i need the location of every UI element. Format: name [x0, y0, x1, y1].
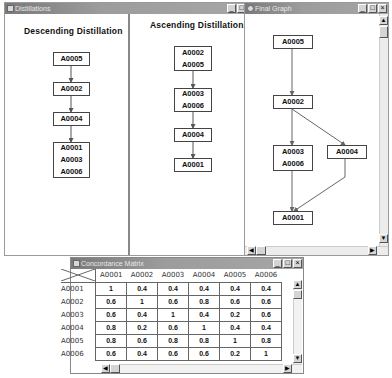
matrix-cell[interactable]: 0.6 [96, 347, 127, 360]
matrix-cell[interactable]: 0.2 [220, 308, 251, 321]
close-button[interactable]: × [293, 259, 302, 268]
table-row: A0005 0.8 0.6 0.8 0.8 1 0.8 [61, 334, 282, 347]
window-title: Final Graph [255, 5, 292, 12]
matrix-cell[interactable]: 0.6 [251, 295, 282, 308]
matrix-cell[interactable]: 0.8 [96, 334, 127, 347]
column-header: A0004 [189, 269, 220, 282]
table-row: A0003 0.6 0.4 1 0.4 0.2 0.6 [61, 308, 282, 321]
descending-pane: Descending Distillation A0005 A0002 A000… [5, 14, 128, 255]
scroll-down-button[interactable]: ▼ [379, 234, 388, 243]
scroll-up-button[interactable]: ▲ [379, 16, 388, 25]
scroll-right-button[interactable]: ▶ [283, 364, 292, 373]
graph-node-a0001[interactable]: A0001 [273, 211, 313, 225]
scroll-down-button[interactable]: ▼ [293, 354, 302, 363]
window-app-icon [7, 5, 14, 12]
matrix-cell[interactable]: 0.4 [127, 282, 158, 295]
matrix-cell[interactable]: 0.4 [127, 308, 158, 321]
descending-edges [5, 14, 128, 255]
desc-node-2[interactable]: A0002 [53, 82, 90, 96]
header-row: A0001 A0002 A0003 A0004 A0005 A0006 [61, 269, 282, 282]
row-header: A0004 [61, 321, 96, 334]
matrix-cell[interactable]: 0.4 [158, 282, 189, 295]
matrix-cell[interactable]: 0.8 [96, 321, 127, 334]
desc-node-3[interactable]: A0004 [53, 112, 90, 126]
scroll-thumb[interactable] [379, 26, 388, 38]
window-app-icon [247, 5, 254, 12]
matrix-cell[interactable]: 0.2 [220, 347, 251, 360]
asc-node-4[interactable]: A0001 [174, 158, 212, 172]
matrix-cell[interactable]: 1 [220, 334, 251, 347]
row-header: A0001 [61, 282, 96, 295]
matrix-cell[interactable]: 0.8 [251, 334, 282, 347]
scroll-left-button[interactable]: ◀ [247, 246, 256, 255]
scroll-up-button[interactable]: ▲ [293, 280, 302, 289]
window-title: Distillations [15, 5, 50, 12]
matrix-cell[interactable]: 0.6 [96, 295, 127, 308]
matrix-cell[interactable]: 0.6 [158, 295, 189, 308]
scroll-thumb[interactable] [110, 364, 120, 373]
matrix-cell[interactable]: 0.4 [127, 347, 158, 360]
matrix-cell[interactable]: 0.6 [220, 295, 251, 308]
matrix-cell[interactable]: 0.6 [96, 308, 127, 321]
minimize-button[interactable]: _ [358, 4, 367, 13]
matrix-cell[interactable]: 0.2 [127, 321, 158, 334]
matrix-cell[interactable]: 1 [96, 282, 127, 295]
matrix-cell[interactable]: 0.4 [220, 321, 251, 334]
matrix-cell[interactable]: 0.8 [189, 295, 220, 308]
matrix-cell[interactable]: 0.6 [158, 347, 189, 360]
asc-node-2[interactable]: A0003 A0006 [174, 88, 212, 112]
matrix-cell[interactable]: 0.6 [158, 321, 189, 334]
graph-node-a0003-a0006[interactable]: A0003 A0006 [273, 145, 313, 171]
column-header: A0002 [127, 269, 158, 282]
close-button[interactable]: × [378, 4, 387, 13]
desc-node-4[interactable]: A0001 A0003 A0006 [53, 142, 90, 178]
window-title: Concordance Matrix [81, 260, 144, 267]
maximize-button[interactable]: □ [283, 259, 292, 268]
row-header: A0005 [61, 334, 96, 347]
scroll-right-button[interactable]: ▶ [368, 246, 377, 255]
matrix-cell[interactable]: 0.4 [189, 282, 220, 295]
matrix-cell[interactable]: 1 [251, 347, 282, 360]
minimize-button[interactable]: _ [273, 259, 282, 268]
desc-node-1[interactable]: A0005 [53, 52, 90, 66]
concordance-matrix-window: Concordance Matrix _ □ × A0001 A0002 A00… [70, 257, 304, 374]
matrix-cell[interactable]: 0.8 [189, 334, 220, 347]
matrix-cell[interactable]: 0.4 [220, 282, 251, 295]
scroll-thumb[interactable] [256, 246, 266, 255]
table-row: A0004 0.8 0.2 0.6 1 0.4 0.4 [61, 321, 282, 334]
window-app-icon [73, 260, 80, 267]
scroll-left-button[interactable]: ◀ [101, 364, 110, 373]
final-graph-titlebar[interactable]: Final Graph _ □ × [245, 3, 388, 14]
matrix-cell[interactable]: 1 [158, 308, 189, 321]
ascending-pane: Ascending Distillation A0002 A0005 A0003… [130, 14, 247, 255]
matrix-cell[interactable]: 0.4 [189, 308, 220, 321]
matrix-cell[interactable]: 0.4 [251, 321, 282, 334]
table-row: A0002 0.6 1 0.6 0.8 0.6 0.6 [61, 295, 282, 308]
graph-node-a0005[interactable]: A0005 [273, 35, 313, 49]
maximize-button[interactable]: □ [368, 4, 377, 13]
vertical-scrollbar[interactable]: ▲ ▼ [293, 280, 302, 364]
matrix-cell[interactable]: 0.6 [127, 334, 158, 347]
horizontal-scrollbar[interactable]: ◀ ▶ [101, 364, 302, 373]
matrix-titlebar[interactable]: Concordance Matrix _ □ × [71, 258, 303, 269]
asc-node-3[interactable]: A0004 [174, 128, 212, 142]
column-header: A0006 [251, 269, 282, 282]
asc-node-1[interactable]: A0002 A0005 [174, 46, 212, 71]
matrix-cell[interactable]: 1 [189, 321, 220, 334]
matrix-cell[interactable]: 0.6 [189, 347, 220, 360]
graph-node-a0002[interactable]: A0002 [273, 95, 313, 109]
row-header: A0003 [61, 308, 96, 321]
graph-node-a0004[interactable]: A0004 [327, 145, 367, 159]
matrix-cell[interactable]: 0.6 [251, 308, 282, 321]
matrix-cell[interactable]: 0.4 [251, 282, 282, 295]
row-header: A0006 [61, 347, 96, 360]
final-graph-window: Final Graph _ □ × A0005 [244, 2, 389, 256]
distillations-window: Distillations _ □ Descending Distillatio… [4, 2, 248, 256]
matrix-cell[interactable]: 0.8 [158, 334, 189, 347]
distillations-titlebar[interactable]: Distillations _ □ [5, 3, 247, 14]
vertical-scrollbar[interactable]: ▲ ▼ [379, 14, 388, 246]
horizontal-scrollbar[interactable]: ◀ ▶ [245, 246, 388, 255]
minimize-button[interactable]: _ [227, 4, 236, 13]
scroll-thumb[interactable] [293, 290, 302, 299]
matrix-cell[interactable]: 1 [127, 295, 158, 308]
